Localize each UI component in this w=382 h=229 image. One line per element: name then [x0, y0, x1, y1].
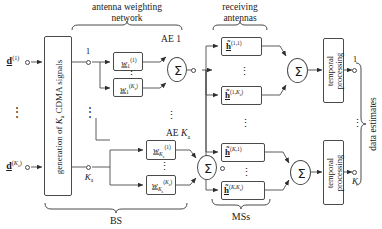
ae-label-1: AE 1	[161, 35, 181, 45]
channel-group-K-dots: ⋮	[241, 167, 252, 178]
summation-ae-Ka-output-node	[220, 166, 225, 171]
output-terminal-1	[352, 68, 357, 73]
temporal-processing-K-line2: processing	[335, 155, 344, 191]
channel-group-1-dots: ⋮	[239, 66, 250, 77]
input-vertical-dots: ⋮	[11, 106, 23, 118]
weight-box-w-1-Ka-label: w1(Ka)	[120, 85, 138, 94]
weight-group-1-dots: ⋮	[126, 70, 137, 81]
channel-groups-separator-dots: ⋮	[240, 118, 251, 129]
weight-box-w-Ka-1-label: wKa(1)	[153, 146, 171, 157]
weight-box-w-Ka-Ka[interactable]: wKa(Ka)	[146, 175, 176, 195]
temporal-processing-1-line2: processing	[335, 53, 344, 89]
output-label-1: 1	[353, 55, 358, 64]
cdma-signal-generator-block[interactable]: generation of Ka CDMA signals	[44, 36, 72, 196]
output-terminal-K	[352, 170, 357, 175]
input-terminal-Ka	[25, 165, 30, 170]
input-label-d-1: d(1)	[7, 56, 20, 66]
input-terminal-1	[25, 60, 30, 65]
branch-label-1: 1	[86, 47, 91, 56]
summation-ae-1-output-node	[191, 68, 196, 73]
group-label-receiving-antennas-line2: antennas	[223, 14, 256, 24]
ae-label-Ka: AE Ka	[166, 129, 190, 139]
channel-box-h-1-1[interactable]: h̃(1,1)	[221, 37, 262, 56]
summation-ae-1: Σ	[167, 57, 187, 82]
channel-box-h-K-Ka[interactable]: h̃(K,Ka)	[221, 181, 265, 200]
weight-group-Ka-dots: ⋮	[159, 161, 170, 172]
sigma-symbol: Σ	[204, 161, 212, 176]
channel-box-h-K-Ka-label: h̃(K,Ka)	[224, 186, 243, 195]
channel-box-h-1-Ka-label: h̃(1,Ka)	[225, 91, 243, 100]
summation-ms-1: Σ	[287, 58, 308, 83]
temporal-processing-block-K[interactable]: temporal processing	[323, 140, 344, 205]
channel-box-h-K-1[interactable]: h̃(K,1)	[221, 143, 265, 162]
diagram-canvas: d(1) d(Ka) ⋮ generation of Ka CDMA signa…	[0, 0, 382, 229]
input-label-d-Ka: d(Ka)	[6, 161, 22, 171]
output-vertical-dots: ⋮	[352, 118, 363, 129]
output-label-K: K	[352, 177, 358, 186]
weight-box-w-Ka-Ka-label: wKa(Ka)	[152, 181, 172, 192]
group-label-mss: MSs	[232, 212, 250, 222]
weight-box-w-Ka-1[interactable]: wKa(1)	[146, 140, 176, 160]
weight-box-w-1-1-label: w1(1)	[121, 59, 136, 68]
branch-node-Ka	[86, 165, 91, 170]
summation-ms-K: Σ	[290, 160, 311, 185]
ae-groups-dots: ⋮	[166, 110, 177, 121]
channel-box-h-1-1-label: h̃(1,1)	[226, 42, 242, 51]
generator-label: generation of Ka CDMA signals	[55, 60, 64, 175]
channel-box-h-1-Ka[interactable]: h̃(1,Ka)	[221, 86, 262, 105]
group-label-antenna-weighting-line2: network	[111, 14, 142, 24]
temporal-processing-block-1[interactable]: temporal processing	[323, 38, 344, 103]
generator-vertical-dots: ⋮	[84, 106, 96, 118]
group-label-antenna-weighting-line1: antenna weighting	[92, 3, 162, 13]
sigma-symbol: Σ	[297, 166, 305, 181]
summation-ae-Ka: Σ	[197, 155, 217, 180]
group-label-receiving-antennas-line1: receiving	[222, 3, 257, 13]
group-label-bs: BS	[110, 216, 122, 226]
branch-node-1	[86, 60, 91, 65]
group-label-data-estimates: data estimates	[369, 97, 379, 151]
sigma-symbol: Σ	[294, 64, 302, 79]
sigma-symbol: Σ	[174, 63, 182, 78]
channel-box-h-K-1-label: h̃(K,1)	[225, 148, 242, 157]
branch-label-Ka: Ka	[85, 173, 94, 182]
